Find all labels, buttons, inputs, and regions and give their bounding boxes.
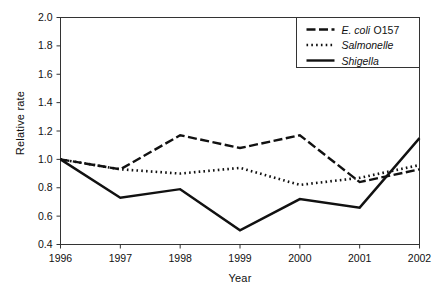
y-tick-label: 1.6 (38, 68, 53, 80)
y-tick-label: 1.8 (38, 39, 53, 51)
y-tick-label: 1.0 (38, 153, 53, 165)
x-tick-label: 1998 (168, 252, 192, 264)
plot-area: 2.01.81.61.41.21.00.80.60.41996199719981… (0, 0, 432, 295)
x-tick-label: 1997 (109, 252, 133, 264)
x-tick-label: 2002 (408, 252, 432, 264)
y-tick-label: 0.6 (38, 210, 53, 222)
y-tick-label: 0.8 (38, 181, 53, 193)
y-tick-label: 2.0 (38, 11, 53, 23)
legend-label-1: Salmonelle (342, 39, 394, 51)
y-tick-label: 0.4 (38, 238, 53, 250)
y-tick-label: 1.2 (38, 125, 53, 137)
x-tick-label: 2001 (348, 252, 372, 264)
y-tick-label: 1.4 (38, 96, 53, 108)
x-tick-label: 1996 (49, 252, 73, 264)
series-line-0 (61, 135, 420, 182)
x-tick-label: 1999 (228, 252, 252, 264)
chart-figure: Relative rate Year 2.01.81.61.41.21.00.8… (0, 0, 432, 295)
legend-label-2: Shigella (342, 55, 380, 67)
series-line-2 (61, 138, 420, 230)
x-tick-label: 2000 (288, 252, 312, 264)
